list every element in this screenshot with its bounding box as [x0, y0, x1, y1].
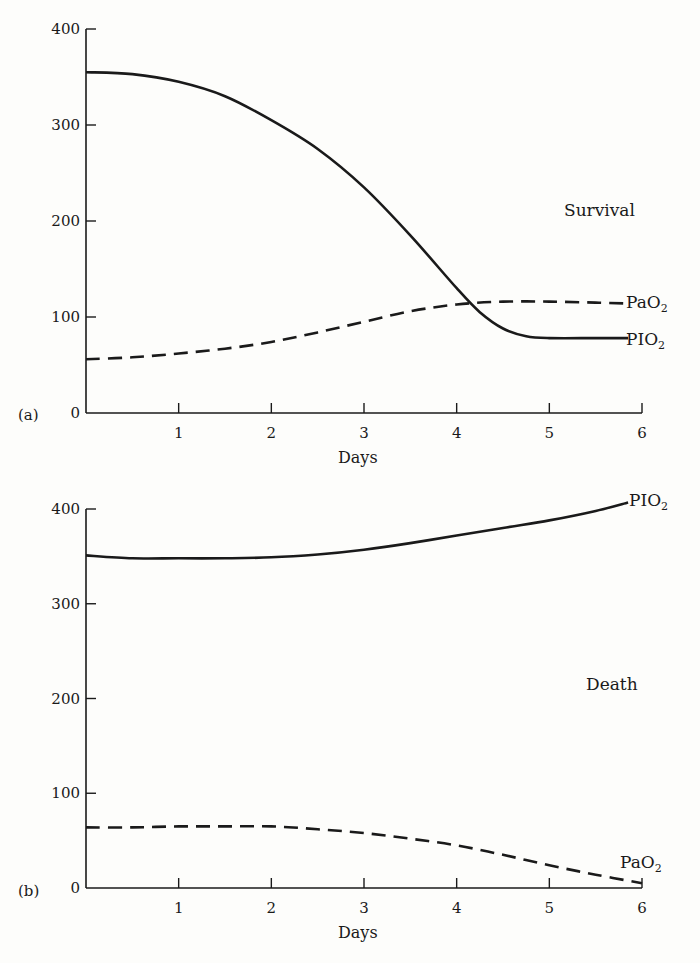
- x-tick-label: 4: [452, 899, 462, 917]
- x-tick-label: 5: [545, 424, 555, 442]
- panel-a-pao2-label: PaO2: [626, 292, 668, 315]
- x-tick-label: 5: [545, 899, 555, 917]
- panel-a-label: (a): [18, 406, 39, 424]
- x-tick-label: 3: [359, 424, 369, 442]
- panel-a-series: [86, 72, 628, 359]
- series-pio2-line: [86, 72, 628, 338]
- panel-b-axes: 0100200300400123456: [51, 500, 646, 917]
- y-tick-label: 300: [51, 116, 80, 134]
- panel-b-pio2-label: PIO2: [629, 490, 668, 513]
- series-pao2-line: [86, 826, 642, 883]
- x-tick-label: 6: [637, 899, 647, 917]
- x-tick-label: 1: [174, 899, 184, 917]
- panel-a-survival: 0100200300400123456 (a) Survival Days Pa…: [18, 20, 668, 467]
- y-tick-label: 200: [51, 212, 80, 230]
- x-tick-label: 4: [452, 424, 462, 442]
- panel-b-annotation: Death: [586, 674, 638, 694]
- y-tick-label: 0: [70, 404, 80, 422]
- y-tick-label: 400: [51, 20, 80, 38]
- x-tick-label: 6: [637, 424, 647, 442]
- panel-b-series: [86, 502, 642, 883]
- y-tick-label: 300: [51, 595, 80, 613]
- panel-a-axes: 0100200300400123456: [51, 20, 646, 442]
- panel-a-annotation: Survival: [564, 200, 635, 220]
- figure: 0100200300400123456 (a) Survival Days Pa…: [0, 0, 700, 963]
- panel-b-pao2-label: PaO2: [620, 852, 662, 875]
- series-pao2-line: [86, 301, 628, 359]
- panel-b-x-axis-title: Days: [338, 923, 378, 942]
- panel-b-death: 0100200300400123456 (b) Death Days PIO2 …: [18, 490, 668, 942]
- y-tick-label: 100: [51, 784, 80, 802]
- panel-a-x-axis-title: Days: [338, 448, 378, 467]
- panel-b-label: (b): [18, 882, 39, 900]
- y-tick-label: 0: [70, 879, 80, 897]
- y-tick-label: 100: [51, 308, 80, 326]
- panel-a-pio2-label: PIO2: [626, 329, 665, 352]
- x-tick-label: 2: [267, 899, 277, 917]
- x-tick-label: 3: [359, 899, 369, 917]
- x-tick-label: 1: [174, 424, 184, 442]
- y-tick-label: 200: [51, 690, 80, 708]
- x-tick-label: 2: [267, 424, 277, 442]
- y-tick-label: 400: [51, 500, 80, 518]
- series-pio2-line: [86, 502, 628, 558]
